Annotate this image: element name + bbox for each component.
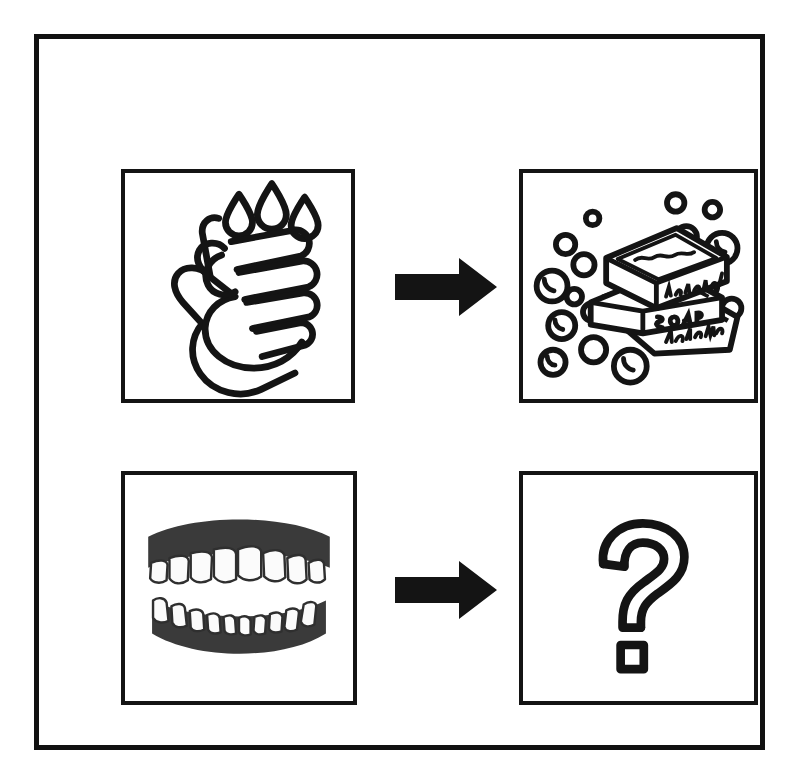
arrow-right-bottom [391, 553, 501, 627]
tooth-upper [150, 561, 167, 583]
tooth-lower [269, 612, 283, 632]
bubble-highlight [544, 279, 554, 291]
arrow-right-icon [391, 553, 501, 627]
tooth-lower [239, 616, 251, 635]
soap-bars-icon [523, 173, 754, 399]
bubble-highlight [547, 357, 555, 366]
bubble-highlight [624, 358, 634, 370]
arrow-shape [395, 561, 497, 619]
tooth-upper [169, 556, 188, 584]
outer-frame [34, 34, 765, 750]
question-dot [621, 645, 644, 669]
bubble [667, 194, 684, 211]
tooth-lower [253, 615, 266, 634]
puzzle-figure [0, 0, 803, 780]
arrow-shape [395, 258, 497, 316]
question-mark-icon [523, 475, 754, 701]
tooth-upper [191, 552, 212, 583]
finger-4 [256, 323, 312, 357]
tooth-lower [301, 602, 316, 626]
lower-arch [152, 598, 326, 654]
tooth-lower [190, 610, 204, 632]
hand-washing-icon [125, 173, 351, 399]
tooth-lower [171, 604, 186, 627]
tooth-lower [224, 615, 237, 634]
bubble [581, 337, 606, 362]
arrow-right-top [391, 250, 501, 324]
bubble [573, 254, 594, 275]
tooth-lower [207, 613, 221, 633]
tooth-upper [214, 548, 236, 582]
bubble-highlight [555, 320, 563, 330]
tooth-lower [153, 598, 168, 622]
water-droplet-middle [257, 184, 286, 229]
tooth-lower [284, 609, 298, 632]
tooth-upper [309, 560, 325, 583]
bubble [548, 312, 575, 339]
bubble [567, 289, 582, 304]
tooth-upper [287, 555, 306, 583]
panel-hand-washing[interactable] [121, 169, 355, 403]
panel-answer-unknown[interactable] [519, 471, 758, 705]
bubble [586, 212, 600, 226]
bubble [537, 271, 568, 302]
upper-arch [148, 519, 330, 583]
bubble [556, 235, 575, 254]
panel-soap-bars[interactable] [519, 169, 758, 403]
bubble [614, 350, 647, 383]
tooth-upper [263, 550, 285, 581]
question-hook-inner [603, 543, 664, 628]
teeth-icon [125, 475, 353, 701]
bubble [705, 202, 720, 217]
arrow-right-icon [391, 250, 501, 324]
tooth-upper [238, 546, 261, 580]
panel-teeth[interactable] [121, 471, 357, 705]
water-droplet-left [225, 194, 252, 236]
